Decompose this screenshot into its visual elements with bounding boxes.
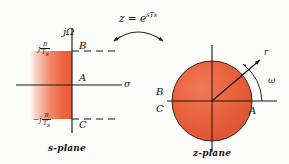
s-plane-bottom-tick-label: −jπTs xyxy=(33,112,51,129)
z-plane-point-C: C xyxy=(156,103,164,114)
mapping-formula: z = esTs xyxy=(119,11,157,24)
s-plane-top-tick-label: jπTs xyxy=(38,41,50,58)
s-plane-vertical-axis-label: jΩ xyxy=(63,27,74,37)
s-plane-horizontal-axis-label: σ xyxy=(124,79,131,89)
z-plane-angle-label: ω xyxy=(268,76,275,85)
s-plane-point-B: B xyxy=(79,40,86,51)
z-plane-caption: z-plane xyxy=(193,148,231,158)
z-plane-point-B: B xyxy=(156,86,163,97)
z-plane-radius-label: r xyxy=(264,48,268,57)
figure-vector-layer xyxy=(0,0,289,164)
mapping-double-arrow xyxy=(114,32,163,41)
z-plane-point-A: A xyxy=(249,105,256,116)
s-plane-to-z-plane-mapping-figure: z = esTs jΩ σ jπTs −jπTs B A C s-plane B… xyxy=(0,0,289,164)
s-plane-point-C: C xyxy=(79,119,87,130)
s-plane-point-A: A xyxy=(79,72,86,83)
s-plane-caption: s-plane xyxy=(48,143,86,153)
